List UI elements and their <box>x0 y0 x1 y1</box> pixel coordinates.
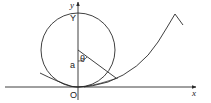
angle-theta-label: θ <box>80 55 85 64</box>
y-axis-label: y <box>70 1 74 10</box>
x-axis-label: x <box>192 89 196 98</box>
curve-cusp <box>175 14 183 25</box>
radius-label: a <box>70 61 75 70</box>
diagram-canvas <box>0 0 211 103</box>
point-y-label: Y <box>70 14 76 23</box>
origin-label: O <box>70 91 77 100</box>
trajectory-curve-left <box>40 73 78 87</box>
trajectory-curve-right <box>78 14 175 87</box>
